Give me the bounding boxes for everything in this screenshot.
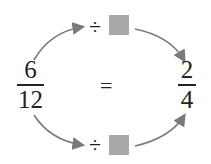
top-divide-sign: ÷ xyxy=(89,16,101,38)
arrow-bottom-left xyxy=(34,115,82,145)
top-blank-box xyxy=(109,15,129,35)
arrow-top-right xyxy=(135,29,184,60)
arrow-top-left xyxy=(34,27,82,60)
left-numerator: 6 xyxy=(24,58,37,82)
left-denominator: 12 xyxy=(18,88,43,112)
bottom-blank-box xyxy=(109,135,129,155)
right-numerator: 2 xyxy=(181,58,194,82)
left-fraction: 6 12 xyxy=(17,58,44,112)
right-denominator: 4 xyxy=(181,88,194,112)
bottom-divide-sign: ÷ xyxy=(89,134,101,156)
right-fraction: 2 4 xyxy=(178,58,196,112)
arrow-bottom-right xyxy=(135,116,184,146)
equals-sign: = xyxy=(100,75,112,97)
